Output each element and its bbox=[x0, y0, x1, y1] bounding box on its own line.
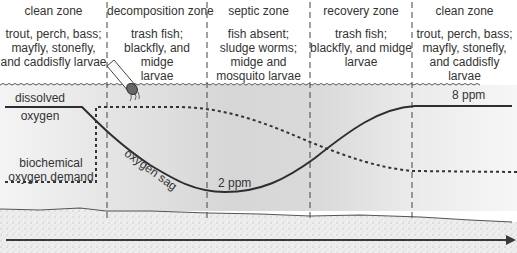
zone-desc-recovery: trash fish; blackfly, and midge larvae bbox=[310, 27, 412, 69]
river-bed bbox=[0, 208, 517, 253]
desc-line: mayfly, stonefly, bbox=[0, 41, 107, 55]
dissolved-oxygen-label: dissolved oxygen bbox=[8, 91, 72, 123]
zone-title-clean-1: clean zone bbox=[0, 4, 107, 18]
oxygen-sag-diagram: clean zone decomposition zone septic zon… bbox=[0, 0, 517, 253]
zone-desc-decomposition: trash fish; blackfly, and midge larvae bbox=[107, 27, 207, 83]
desc-line: sludge worms; bbox=[207, 41, 310, 55]
zone-desc-septic: fish absent; sludge worms; midge and mos… bbox=[207, 27, 310, 83]
desc-line: blackfly, and midge bbox=[107, 41, 207, 69]
zone-desc-clean-1: trout, perch, bass; mayfly, stonefly, an… bbox=[0, 27, 107, 69]
water-surface bbox=[0, 84, 480, 86]
zone-title-recovery: recovery zone bbox=[310, 4, 412, 18]
desc-line: fish absent; bbox=[207, 27, 310, 41]
zone-title-septic: septic zone bbox=[207, 4, 310, 18]
min-ppm-label: 2 ppm bbox=[218, 176, 251, 190]
desc-line: trash fish; bbox=[310, 27, 412, 41]
label-line: biochemical bbox=[6, 156, 96, 170]
max-ppm-label: 8 ppm bbox=[452, 88, 485, 102]
label-line: oxygen bbox=[8, 109, 72, 123]
desc-line: and caddisfly larvae bbox=[412, 55, 517, 83]
desc-line: and caddisfly larvae bbox=[0, 55, 107, 69]
label-line: dissolved bbox=[8, 91, 72, 105]
desc-line: larvae bbox=[310, 55, 412, 69]
desc-line: midge and bbox=[207, 55, 310, 69]
desc-line: mayfly, stonefly, bbox=[412, 41, 517, 55]
desc-line: mosquito larvae bbox=[207, 69, 310, 83]
desc-line: trash fish; bbox=[107, 27, 207, 41]
label-line: oxygen demand bbox=[6, 170, 96, 184]
bod-label: biochemical oxygen demand bbox=[6, 175, 96, 184]
zone-desc-clean-2: trout, perch, bass; mayfly, stonefly, an… bbox=[412, 27, 517, 83]
water-body bbox=[0, 85, 517, 211]
zone-title-clean-2: clean zone bbox=[412, 4, 517, 18]
desc-line: larvae bbox=[107, 69, 207, 83]
desc-line: blackfly, and midge bbox=[310, 41, 412, 55]
zone-title-decomposition: decomposition zone bbox=[107, 4, 207, 18]
desc-line: trout, perch, bass; bbox=[0, 27, 107, 41]
desc-line: trout, perch, bass; bbox=[412, 27, 517, 41]
